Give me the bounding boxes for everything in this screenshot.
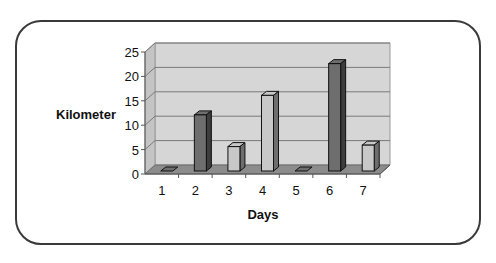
x-tick-label: 2: [192, 183, 199, 198]
x-tick-label: 3: [225, 183, 232, 198]
x-axis-title: Days: [247, 207, 278, 222]
x-tick-label: 1: [158, 183, 165, 198]
y-tick-label: 20: [125, 69, 139, 84]
bar-day-7: [362, 141, 379, 171]
bar-day-4: [262, 91, 279, 171]
y-tick-label: 10: [125, 118, 139, 133]
y-axis-ticks: 0510152025: [125, 45, 145, 182]
y-tick-label: 25: [125, 45, 139, 60]
bar-day-2: [194, 111, 211, 171]
bar-day-3: [228, 143, 245, 171]
bar-chart: 0510152025 1234567 Kilometer Days: [0, 0, 496, 263]
x-tick-label: 7: [360, 183, 367, 198]
x-tick-label: 5: [292, 183, 299, 198]
y-tick-label: 0: [132, 167, 139, 182]
y-tick-label: 5: [132, 143, 139, 158]
bar-day-6: [329, 60, 346, 171]
y-tick-label: 15: [125, 94, 139, 109]
y-axis-title: Kilometer: [56, 107, 116, 122]
x-tick-label: 4: [259, 183, 266, 198]
x-tick-label: 6: [326, 183, 333, 198]
